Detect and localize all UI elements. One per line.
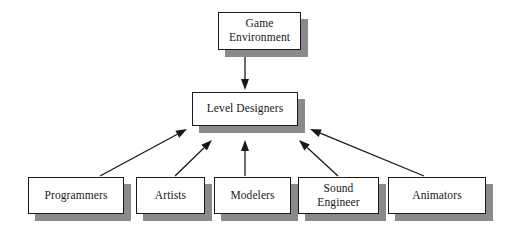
node-label-game-environment: Game Environment [226, 17, 293, 44]
edge-programmers-to-level-designers [100, 129, 187, 176]
node-level-designers[interactable]: Level Designers [192, 92, 298, 126]
node-label-artists: Artists [152, 189, 189, 203]
node-label-modelers: Modelers [227, 189, 277, 203]
edge-modelers-to-level-designers [241, 140, 249, 176]
node-label-animators: Animators [409, 189, 464, 203]
edge-artists-to-level-designers [175, 140, 212, 176]
node-animators[interactable]: Animators [388, 177, 486, 214]
node-programmers[interactable]: Programmers [28, 177, 124, 214]
edge-sound-engineer-to-level-designers [299, 140, 338, 176]
node-label-sound-engineer: Sound Engineer [314, 182, 362, 209]
node-game-environment[interactable]: Game Environment [218, 12, 301, 50]
node-modelers[interactable]: Modelers [214, 177, 291, 214]
node-sound-engineer[interactable]: Sound Engineer [298, 177, 379, 214]
node-artists[interactable]: Artists [136, 177, 205, 214]
node-label-programmers: Programmers [41, 189, 110, 203]
node-label-level-designers: Level Designers [204, 102, 287, 116]
edge-animators-to-level-designers [310, 129, 424, 176]
diagram-canvas: Game Environment Level Designers Program… [0, 0, 513, 232]
